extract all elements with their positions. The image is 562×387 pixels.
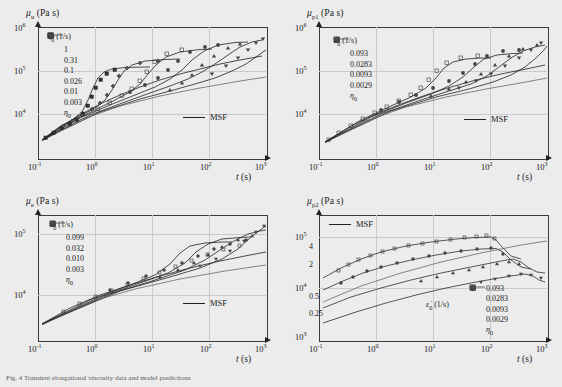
legend-item[interactable]: 0.31	[47, 56, 82, 67]
msf-label: MSF	[210, 112, 227, 122]
legend-label: 0.093	[483, 284, 504, 295]
panel-mu-u: μu (Pa s) 106 105 104 10-1 100 101 102 1…	[0, 0, 281, 190]
figure-caption: Fig. 4 Transient elongational viscosity …	[6, 374, 556, 382]
legend-label: 0.31	[61, 56, 78, 67]
legend-label: η0	[63, 275, 73, 288]
curve-label: 0.5	[309, 292, 319, 301]
panel-mu-p2: μp2 (Pa s) 105 104 103 10-1 100 101 102 …	[281, 190, 562, 372]
legend: 0.093 0.0283 0.0093 0.0029	[469, 284, 508, 337]
legend-item[interactable]: η0	[469, 326, 508, 337]
msf-line-swatch	[464, 119, 486, 120]
legend-label: 0.032	[63, 244, 84, 255]
legend-item[interactable]: 0.032	[49, 244, 84, 255]
legend-item[interactable]: η0	[47, 109, 82, 120]
legend-label: 0.0093	[347, 70, 372, 81]
msf-annotation: MSF	[329, 219, 373, 229]
legend-label: 0.0283	[483, 294, 508, 305]
msf-line-swatch	[183, 117, 205, 118]
panel-mu-p1: μp1 (Pa s) 106 105 104 10-1 100 101 102 …	[281, 0, 562, 190]
legend-label: η0	[483, 325, 493, 338]
legend-label: 0.0283	[347, 60, 372, 71]
legend-label: 0.093	[347, 49, 368, 60]
legend-item[interactable]: 0.093	[333, 50, 372, 61]
msf-annotation: MSF	[183, 298, 227, 308]
legend-label: 0.099	[63, 233, 84, 244]
legend: ε̇0 (1/s) 0.093 0.0283 0.0093	[333, 36, 372, 102]
panel-mu-e: μe (Pa s) 105 104 10-1 100 101 102 103 t…	[0, 190, 281, 372]
legend-item[interactable]: 0.0093	[469, 305, 508, 316]
legend-item[interactable]: 0.0283	[469, 295, 508, 306]
legend-label: η0	[347, 91, 357, 104]
legend-label: 0.010	[63, 254, 84, 265]
legend-item[interactable]: 1	[47, 46, 82, 57]
msf-annotation: MSF	[183, 112, 227, 122]
legend-item[interactable]: 0.010	[49, 255, 84, 266]
data-curves	[281, 0, 562, 190]
legend: ε̇0 (1/s) 1 0.31 0.1	[47, 32, 82, 119]
msf-line-swatch	[183, 303, 205, 304]
legend-item[interactable]: 0.01	[47, 88, 82, 99]
data-curves	[0, 190, 281, 372]
msf-label: MSF	[210, 298, 227, 308]
legend-item[interactable]: 0.0093	[333, 71, 372, 82]
figure-root: μu (Pa s) 106 105 104 10-1 100 101 102 1…	[0, 0, 562, 387]
legend-item[interactable]: η0	[333, 92, 372, 103]
legend-label: 0.01	[61, 87, 78, 98]
legend-label: 0.1	[61, 66, 74, 77]
legend-label: 1	[61, 45, 68, 56]
curve-label: 0.25	[309, 309, 323, 318]
data-curves	[281, 190, 562, 372]
legend-label: η0	[61, 108, 71, 121]
legend-item[interactable]: η0	[49, 276, 84, 287]
legend-label: 0.0093	[483, 305, 508, 316]
legend-title: ε̇0 (1/s)	[426, 300, 449, 311]
legend-item[interactable]: 0.026	[47, 77, 82, 88]
curve-label: 4	[309, 242, 313, 251]
msf-label: MSF	[491, 114, 508, 124]
msf-line-swatch	[329, 224, 351, 225]
legend-item[interactable]: 0.1	[47, 67, 82, 78]
legend: ε̇0 (1/s) 0.099 0.032 0.010	[49, 220, 84, 286]
msf-annotation: MSF	[464, 114, 508, 124]
legend-item[interactable]: 0.0283	[333, 60, 372, 71]
msf-label: MSF	[356, 219, 373, 229]
legend-item[interactable]: 0.099	[49, 234, 84, 245]
legend-label: 0.026	[61, 77, 82, 88]
curve-label: 2	[309, 260, 313, 269]
data-curves	[0, 0, 281, 190]
